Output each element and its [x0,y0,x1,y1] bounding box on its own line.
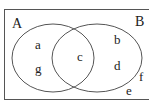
region-intersection-c: c [77,50,83,63]
outside-e: e [126,84,132,97]
region-a-only-a: a [35,38,41,51]
set-a-label: A [12,17,22,31]
set-b-ellipse [52,24,142,92]
region-b-only-d: d [114,59,121,72]
region-b-only-b: b [114,33,121,46]
set-b-label: B [135,15,144,29]
region-a-only-g: g [35,62,42,75]
outside-f: f [139,70,143,83]
